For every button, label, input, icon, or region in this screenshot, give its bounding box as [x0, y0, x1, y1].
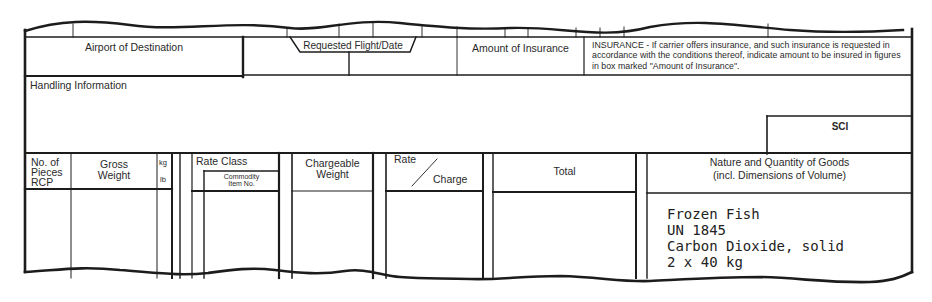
charge-label: Charge [433, 174, 467, 186]
nature-quantity-sublabel: (incl. Dimensions of Volume) [647, 170, 912, 182]
commodity-item-no-label: Commodity Item No. [204, 173, 279, 188]
goods-line-3: Carbon Dioxide, solid [667, 239, 844, 255]
amount-of-insurance-field[interactable] [459, 56, 582, 74]
handling-information-field[interactable] [28, 94, 763, 150]
sci-label: SCI [768, 121, 912, 132]
nature-quantity-label: Nature and Quantity of Goods [647, 157, 912, 169]
total-cell[interactable] [495, 194, 635, 274]
pieces-cell[interactable] [27, 192, 70, 270]
sci-field[interactable] [770, 134, 910, 152]
rate-class-cell[interactable] [193, 192, 203, 270]
requested-flight-date-label: Requested Flight/Date [290, 40, 416, 51]
rate-charge-cell[interactable] [388, 193, 482, 273]
goods-line-2: UN 1845 [667, 223, 726, 239]
requested-flight-field[interactable] [245, 54, 347, 74]
commodity-item-cell[interactable] [206, 193, 278, 271]
kg-label: kg [159, 159, 167, 167]
handling-information-label: Handling Information [30, 80, 127, 92]
airport-of-destination-field[interactable] [27, 55, 241, 75]
kg-lb-cell[interactable] [158, 192, 171, 270]
requested-date-field[interactable] [351, 54, 455, 74]
rate-label: Rate [394, 154, 416, 166]
goods-line-4: 2 x 40 kg [667, 255, 743, 271]
amount-of-insurance-label: Amount of Insurance [457, 43, 584, 55]
gross-weight-label: Gross Weight [71, 159, 157, 181]
insurance-note: INSURANCE - If carrier offers insurance,… [592, 40, 908, 71]
gross-weight-cell[interactable] [72, 192, 156, 270]
chargeable-weight-cell[interactable] [294, 193, 372, 271]
goods-line-1: Frozen Fish [667, 207, 760, 223]
lb-label: lb [160, 176, 166, 184]
nature-quantity-cell[interactable]: Frozen Fish UN 1845 Carbon Dioxide, soli… [649, 195, 910, 275]
total-label: Total [493, 166, 636, 178]
no-of-pieces-label: No. of Pieces RCP [31, 157, 63, 187]
rate-class-label: Rate Class [196, 156, 247, 168]
chargeable-weight-label: Chargeable Weight [292, 158, 373, 180]
airport-of-destination-label: Airport of Destination [25, 42, 243, 54]
